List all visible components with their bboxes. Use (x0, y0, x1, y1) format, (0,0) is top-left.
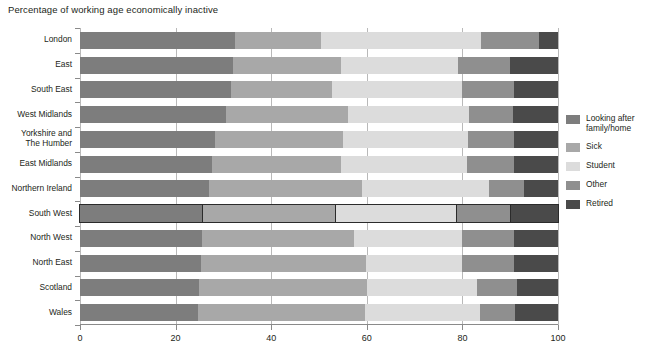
bar-segment[interactable] (201, 255, 366, 272)
x-axis-tick-20 (176, 325, 177, 330)
bar-segment[interactable] (335, 205, 456, 222)
legend-item-looking-after[interactable]: Looking after family/home (566, 114, 648, 133)
bar-segment[interactable] (367, 279, 477, 296)
legend-item-retired[interactable]: Retired (566, 199, 648, 209)
bar-segment[interactable] (343, 131, 468, 148)
y-axis-label-south-west: South West (0, 208, 72, 218)
bar-segment[interactable] (481, 32, 538, 49)
bar-segment[interactable] (341, 156, 467, 173)
bar-segment[interactable] (514, 156, 558, 173)
bar-segment[interactable] (231, 81, 332, 98)
y-axis-label-east: East (0, 59, 72, 69)
bar-segment[interactable] (321, 32, 482, 49)
bar-row[interactable] (80, 279, 558, 296)
bar-rows (80, 28, 558, 325)
bar-segment[interactable] (202, 205, 335, 222)
bar-segment[interactable] (80, 230, 202, 247)
bar-segment[interactable] (480, 304, 515, 321)
chart-screenshot: Percentage of working age economically i… (0, 0, 649, 349)
bar-segment[interactable] (458, 57, 511, 74)
bar-segment[interactable] (517, 279, 558, 296)
bar-row[interactable] (80, 81, 558, 98)
bar-segment[interactable] (467, 156, 513, 173)
legend-swatch-icon (566, 181, 580, 190)
bar-segment[interactable] (513, 106, 558, 123)
legend-item-student[interactable]: Student (566, 161, 648, 171)
bar-row[interactable] (80, 57, 558, 74)
bar-segment[interactable] (215, 131, 343, 148)
bar-segment[interactable] (80, 279, 199, 296)
bar-segment[interactable] (469, 106, 513, 123)
bar-segment[interactable] (524, 180, 558, 197)
bar-segment[interactable] (80, 131, 215, 148)
legend-item-other[interactable]: Other (566, 180, 648, 190)
bar-segment[interactable] (539, 32, 558, 49)
bar-segment[interactable] (80, 32, 235, 49)
legend-swatch-icon (566, 115, 580, 124)
bar-row[interactable] (80, 255, 558, 272)
bar-segment[interactable] (80, 255, 201, 272)
bar-segment[interactable] (366, 255, 463, 272)
bar-segment[interactable] (80, 106, 226, 123)
legend-label: Other (586, 180, 607, 190)
bar-segment[interactable] (515, 304, 558, 321)
bar-segment[interactable] (198, 304, 365, 321)
bar-segment[interactable] (233, 57, 342, 74)
bar-row[interactable] (80, 106, 558, 123)
bar-segment[interactable] (226, 106, 348, 123)
bar-segment[interactable] (80, 156, 212, 173)
chart-title: Percentage of working age economically i… (8, 4, 218, 15)
bar-row[interactable] (80, 180, 558, 197)
x-axis-label-40: 40 (266, 333, 276, 343)
bar-segment[interactable] (514, 255, 558, 272)
bar-segment[interactable] (332, 81, 462, 98)
bar-segment[interactable] (365, 304, 479, 321)
bar-segment[interactable] (341, 57, 457, 74)
x-axis-tick-60 (367, 325, 368, 330)
y-axis-label-east-midlands: East Midlands (0, 158, 72, 168)
bar-segment[interactable] (462, 81, 513, 98)
bar-segment[interactable] (489, 180, 524, 197)
bar-segment[interactable] (477, 279, 517, 296)
bar-row[interactable] (80, 156, 558, 173)
bar-row[interactable] (80, 304, 558, 321)
bar-segment[interactable] (462, 230, 514, 247)
bar-segment[interactable] (80, 180, 209, 197)
y-axis-label-yorkshire-and-the-humber: Yorkshire and The Humber (0, 128, 72, 148)
bar-segment[interactable] (202, 230, 354, 247)
bar-row[interactable] (80, 131, 558, 148)
x-axis-label-0: 0 (77, 333, 82, 343)
bar-segment[interactable] (199, 279, 367, 296)
bar-segment[interactable] (80, 304, 198, 321)
y-axis-label-wales: Wales (0, 307, 72, 317)
bar-row[interactable] (80, 230, 558, 247)
legend-swatch-icon (566, 143, 580, 152)
bar-segment[interactable] (510, 57, 558, 74)
bar-segment[interactable] (354, 230, 463, 247)
bar-row[interactable] (80, 32, 558, 49)
bar-segment[interactable] (514, 81, 558, 98)
bar-segment[interactable] (456, 205, 509, 222)
y-axis-label-northern-ireland: Northern Ireland (0, 183, 72, 193)
y-axis-label-scotland: Scotland (0, 282, 72, 292)
bar-segment[interactable] (514, 230, 557, 247)
bar-segment[interactable] (212, 156, 341, 173)
plot-area (80, 28, 558, 325)
bar-segment[interactable] (80, 81, 231, 98)
x-axis-tick-40 (271, 325, 272, 330)
legend-item-sick[interactable]: Sick (566, 142, 648, 152)
bar-segment[interactable] (80, 205, 202, 222)
bar-row[interactable] (80, 205, 558, 222)
bar-segment[interactable] (462, 255, 513, 272)
bar-segment[interactable] (510, 205, 558, 222)
legend-label: Student (586, 161, 615, 171)
bar-segment[interactable] (80, 57, 233, 74)
x-axis-tick-80 (462, 325, 463, 330)
bar-segment[interactable] (235, 32, 321, 49)
x-axis-line (80, 324, 558, 325)
bar-segment[interactable] (514, 131, 558, 148)
bar-segment[interactable] (468, 131, 513, 148)
bar-segment[interactable] (209, 180, 362, 197)
bar-segment[interactable] (348, 106, 469, 123)
bar-segment[interactable] (362, 180, 489, 197)
